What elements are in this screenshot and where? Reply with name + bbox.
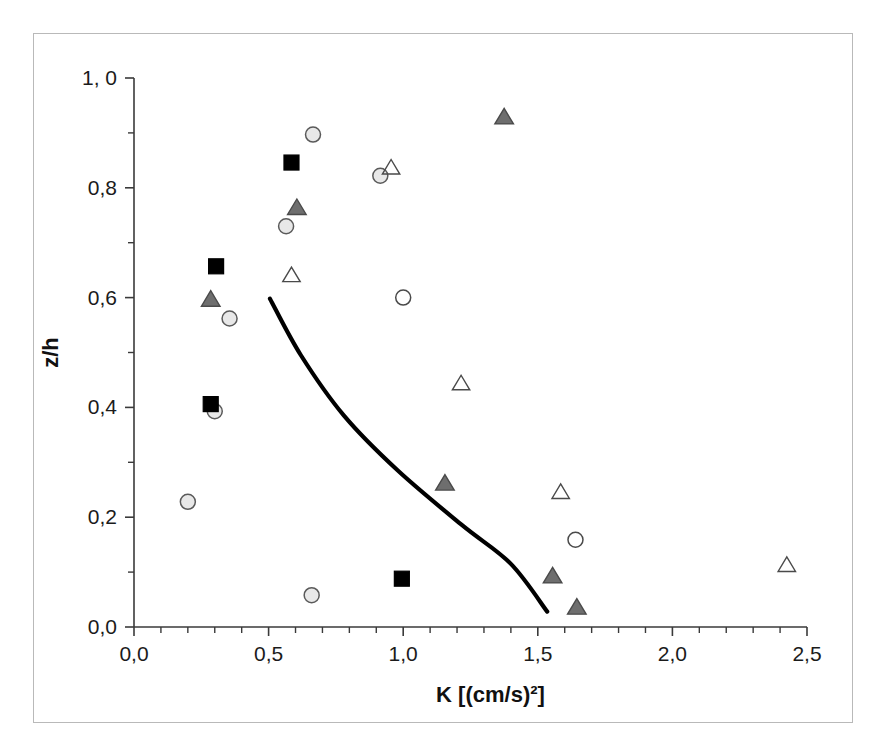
marker-triangle [288,199,307,215]
data-markers-group [180,108,795,614]
marker-circle [279,219,294,234]
marker-square [209,259,224,274]
x-tick-label: 0,0 [119,642,148,665]
x-tick-label: 0,5 [254,642,283,665]
marker-triangle [543,567,562,583]
y-axis-title: z/h [38,337,63,368]
marker-circle [568,532,583,547]
y-tick-label: 0,4 [88,395,118,418]
axes-group [134,78,807,627]
marker-triangle [495,108,514,124]
y-tick-label: 0,0 [88,615,117,638]
marker-circle [222,311,237,326]
series-light-gray-filled-circle [180,127,387,603]
marker-square [203,397,218,412]
marker-triangle [436,475,455,491]
marker-square [284,155,299,170]
marker-circle [373,168,388,183]
marker-triangle [283,267,300,282]
series-open-triangle [283,159,796,571]
series-gray-filled-triangle [201,108,586,614]
x-tick-label: 2,5 [792,642,821,665]
marker-triangle [778,557,795,572]
y-tick-label: 0,2 [88,505,117,528]
series-black-filled-square [203,155,409,586]
axis-ticks-group [125,78,807,636]
marker-circle [396,290,411,305]
series-open-circle [396,290,583,547]
x-axis-title: K [(cm/s)²] [436,682,545,707]
fit-curve-group [270,299,547,612]
marker-circle [306,127,321,142]
marker-circle [304,588,319,603]
x-tick-label: 1,0 [389,642,418,665]
marker-triangle [201,291,220,307]
scatter-plot: 0,00,51,01,52,02,5 0,00,20,40,60,81, 0 K… [0,0,888,755]
marker-square [394,571,409,586]
marker-triangle [452,375,469,390]
y-tick-label: 1, 0 [82,66,117,89]
y-tick-label: 0,6 [88,286,117,309]
y-axis-tick-labels: 0,00,20,40,60,81, 0 [82,66,117,638]
x-tick-label: 1,5 [523,642,552,665]
figure-root: 0,00,51,01,52,02,5 0,00,20,40,60,81, 0 K… [0,0,888,755]
marker-triangle [552,484,569,499]
x-axis-tick-labels: 0,00,51,01,52,02,5 [119,642,821,665]
x-tick-label: 2,0 [658,642,687,665]
y-tick-label: 0,8 [88,176,117,199]
marker-circle [180,494,195,509]
marker-triangle [568,599,587,615]
fit-curve-path [270,299,547,612]
